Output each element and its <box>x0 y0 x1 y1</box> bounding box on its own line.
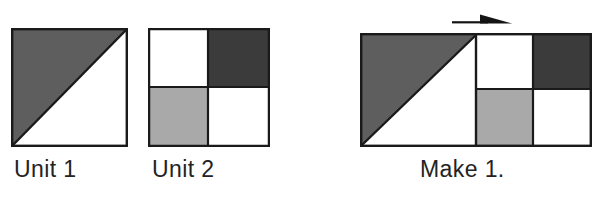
unit1-figure <box>11 28 128 147</box>
unit2-top-right-square <box>208 30 268 87</box>
direction-arrow-icon <box>452 13 514 29</box>
make1-right-bottom-right-square <box>533 89 590 145</box>
unit2-caption: Unit 2 <box>152 158 214 181</box>
make1-caption: Make 1. <box>420 158 505 181</box>
unit2-svg <box>148 28 270 147</box>
unit1-caption: Unit 1 <box>14 158 76 181</box>
make1-right-top-right-square <box>533 35 590 89</box>
make1-right-bottom-left-square <box>476 89 533 145</box>
make1-right-top-left-square <box>476 35 533 89</box>
unit2-bottom-right-square <box>208 87 268 145</box>
unit2-top-left-square <box>150 30 208 87</box>
diagram-canvas: Unit 1 Unit 2 <box>0 0 616 200</box>
make1-figure <box>360 33 592 147</box>
direction-arrow <box>452 13 514 29</box>
arrow-head <box>480 15 512 24</box>
unit1-svg <box>11 28 128 147</box>
unit2-bottom-left-square <box>150 87 208 145</box>
unit2-figure <box>148 28 270 147</box>
make1-svg <box>360 33 592 147</box>
